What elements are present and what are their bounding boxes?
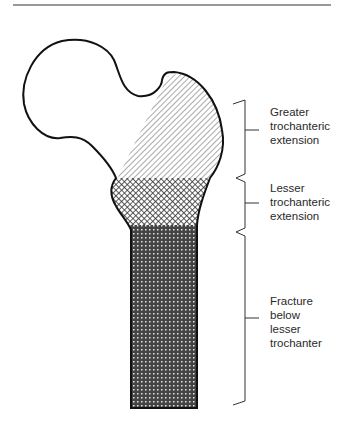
bracket-below bbox=[233, 236, 259, 405]
lesser-trochanter-crosshatch bbox=[100, 178, 240, 226]
label-fracture-below-lesser-trochanter: Fracture below lesser trochanter bbox=[270, 294, 322, 350]
greater-trochanter-hatch bbox=[117, 60, 240, 179]
label-greater-trochanteric-extension: Greater trochanteric extension bbox=[270, 105, 330, 147]
bracket-greater bbox=[233, 100, 259, 182]
shaft-dense-hatch bbox=[100, 225, 240, 415]
bracket-lesser bbox=[236, 182, 259, 236]
label-lesser-trochanteric-extension: Lesser trochanteric extension bbox=[270, 181, 330, 223]
